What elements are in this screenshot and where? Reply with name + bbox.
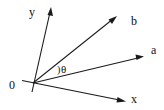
y-arrowhead-icon bbox=[48, 7, 54, 16]
vector-b-label: b bbox=[131, 14, 137, 28]
origin-label: 0 bbox=[9, 78, 15, 92]
x-axis-label: x bbox=[131, 92, 137, 106]
vector-a-label: a bbox=[151, 43, 157, 57]
a-arrowhead-icon bbox=[136, 55, 145, 61]
angle-theta-label: θ bbox=[61, 63, 66, 75]
angle-marker: ) bbox=[57, 64, 60, 76]
y-axis-label: y bbox=[29, 5, 35, 19]
x-axis bbox=[22, 81, 126, 103]
b-arrowhead-icon bbox=[109, 16, 118, 24]
vector-diagram: y x b a 0 ) θ bbox=[0, 0, 164, 110]
x-arrowhead-icon bbox=[117, 97, 127, 103]
vector-a bbox=[33, 55, 144, 84]
